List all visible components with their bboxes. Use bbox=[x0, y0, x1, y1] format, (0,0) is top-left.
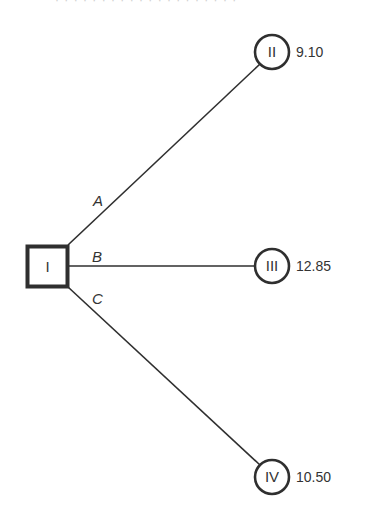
edge-c bbox=[68, 287, 260, 465]
decision-tree-diagram: A B C I II 9.10 III 12.85 IV 10.50 bbox=[0, 0, 371, 532]
node-label-iii: III bbox=[266, 257, 279, 274]
outcome-node-iii: III 12.85 bbox=[255, 249, 331, 283]
edge-label-c: C bbox=[92, 290, 103, 307]
outcome-node-iv: IV 10.50 bbox=[255, 460, 331, 494]
decision-node-i: I bbox=[28, 247, 68, 287]
node-label-iv: IV bbox=[265, 468, 279, 485]
node-value-iii: 12.85 bbox=[296, 258, 331, 274]
edge-a bbox=[68, 64, 260, 245]
node-label-ii: II bbox=[268, 43, 276, 60]
node-value-iv: 10.50 bbox=[296, 469, 331, 485]
edge-label-a: A bbox=[92, 192, 103, 209]
outcome-node-ii: II 9.10 bbox=[255, 35, 323, 69]
edge-label-b: B bbox=[92, 248, 102, 265]
node-value-ii: 9.10 bbox=[296, 44, 323, 60]
node-label-i: I bbox=[45, 258, 49, 275]
